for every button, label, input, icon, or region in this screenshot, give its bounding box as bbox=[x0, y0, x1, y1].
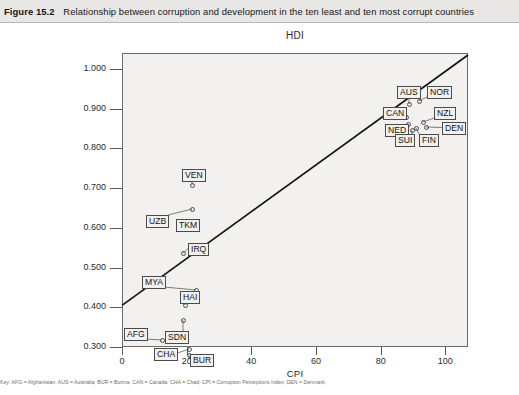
chart-title: HDI bbox=[122, 30, 468, 41]
point-label-fin[interactable]: FIN bbox=[419, 134, 439, 147]
data-point-afg[interactable] bbox=[160, 338, 165, 343]
y-axis-tick bbox=[110, 268, 122, 269]
data-point-ven[interactable] bbox=[190, 183, 195, 188]
data-point-nzl[interactable] bbox=[421, 120, 426, 125]
data-point-irq[interactable] bbox=[181, 251, 186, 256]
y-axis-tick bbox=[110, 307, 122, 308]
y-axis-tick-label: 1.000 bbox=[60, 63, 106, 73]
x-axis-tick-label: 60 bbox=[296, 356, 336, 366]
data-point-fin[interactable] bbox=[414, 126, 419, 131]
x-axis-tick bbox=[445, 347, 446, 355]
point-label-tkm[interactable]: TKM bbox=[176, 219, 200, 232]
point-label-cha[interactable]: CHA bbox=[154, 348, 178, 361]
y-axis-tick bbox=[110, 188, 122, 189]
point-label-sdn[interactable]: SDN bbox=[165, 331, 189, 344]
point-label-ven[interactable]: VEN bbox=[182, 169, 206, 182]
data-point-uzb[interactable] bbox=[190, 207, 195, 212]
y-axis-tick bbox=[110, 69, 122, 70]
x-axis-tick-label: 80 bbox=[361, 356, 401, 366]
y-axis-tick bbox=[110, 228, 122, 229]
x-axis-tick-label: 100 bbox=[425, 356, 465, 366]
x-axis-tick-label: 40 bbox=[231, 356, 271, 366]
point-label-sui[interactable]: SUI bbox=[395, 134, 415, 147]
data-point-den[interactable] bbox=[424, 125, 429, 130]
x-axis-tick-label: 0 bbox=[102, 356, 142, 366]
figure-caption-text: Relationship between corruption and deve… bbox=[63, 6, 474, 17]
point-label-aus[interactable]: AUS bbox=[397, 86, 421, 99]
figure-footnote: Key: AFG = Afghanistan; AUS = Australia;… bbox=[0, 379, 519, 385]
y-axis-tick-label: 0.300 bbox=[60, 341, 106, 351]
x-axis-title: CPI bbox=[122, 368, 468, 379]
y-axis-tick bbox=[110, 148, 122, 149]
point-label-nzl[interactable]: NZL bbox=[434, 107, 456, 120]
point-label-uzb[interactable]: UZB bbox=[146, 215, 169, 228]
figure-canvas: HDI 0.3000.4000.5000.6000.7000.8000.9001… bbox=[0, 23, 519, 375]
point-label-nor[interactable]: NOR bbox=[427, 86, 452, 99]
y-axis-tick-label: 0.900 bbox=[60, 103, 106, 113]
point-label-bur[interactable]: BUR bbox=[190, 354, 214, 367]
point-label-hai[interactable]: HAI bbox=[180, 291, 200, 304]
figure-number: Figure 15.2 bbox=[4, 6, 55, 17]
figure-caption: Figure 15.2 Relationship between corrupt… bbox=[4, 6, 474, 17]
x-axis-tick bbox=[381, 347, 382, 355]
y-axis-tick-label: 0.500 bbox=[60, 262, 106, 272]
data-point-cha[interactable] bbox=[187, 347, 192, 352]
data-point-nor[interactable] bbox=[417, 99, 422, 104]
y-axis-tick bbox=[110, 109, 122, 110]
y-axis-tick-label: 0.600 bbox=[60, 222, 106, 232]
point-label-afg[interactable]: AFG bbox=[124, 328, 148, 341]
y-axis-tick-label: 0.700 bbox=[60, 182, 106, 192]
point-label-can[interactable]: CAN bbox=[383, 107, 407, 120]
figure-caption-bar: Figure 15.2 Relationship between corrupt… bbox=[0, 0, 519, 22]
point-label-irq[interactable]: IRQ bbox=[188, 243, 209, 256]
y-axis-tick-label: 0.400 bbox=[60, 301, 106, 311]
point-label-mya[interactable]: MYA bbox=[142, 276, 166, 289]
x-axis-tick bbox=[122, 347, 123, 355]
x-axis-tick bbox=[251, 347, 252, 355]
data-point-sdn[interactable] bbox=[181, 318, 186, 323]
data-point-aus[interactable] bbox=[407, 102, 412, 107]
y-axis-tick-label: 0.800 bbox=[60, 142, 106, 152]
point-label-den[interactable]: DEN bbox=[442, 122, 466, 135]
x-axis-tick bbox=[316, 347, 317, 355]
y-axis-tick bbox=[110, 347, 122, 348]
